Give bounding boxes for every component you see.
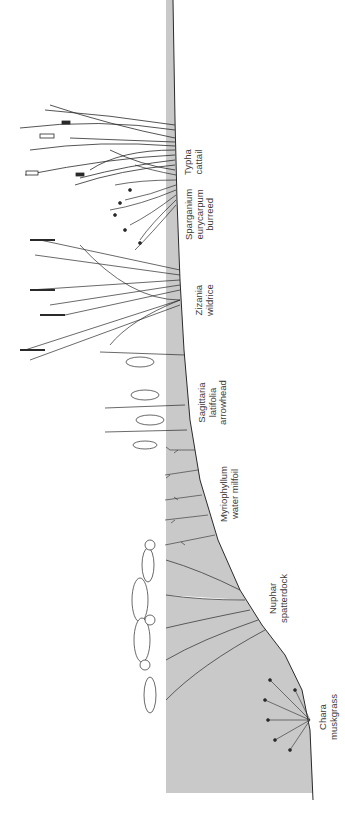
label-nuphar-genus: Nuphar: [268, 574, 279, 623]
label-myriophyllum-common: water milfoil: [230, 466, 241, 522]
label-chara-genus: Chara: [318, 694, 329, 740]
zizania-plants: [20, 240, 180, 360]
typha-plants: [20, 105, 175, 185]
label-typha-genus: Typha: [183, 149, 194, 175]
label-sparganium-genus: Sparganium: [184, 189, 195, 240]
label-nuphar: Nuphar spatterdock: [268, 574, 289, 623]
label-sagittaria: Sagittaria latifolia arrowhead: [197, 380, 229, 425]
label-typha-common: cattail: [194, 149, 205, 175]
label-myriophyllum-genus: Myriophyllum: [219, 466, 230, 522]
label-sagittaria-common: arrowhead: [218, 380, 229, 425]
lake-zonation-diagram: [0, 0, 345, 813]
label-sparganium-common: burreed: [205, 189, 216, 240]
label-zizania-genus: Zizania: [194, 284, 205, 316]
label-sparganium: Sparganium eurycarpum burreed: [184, 189, 216, 240]
label-chara: Chara muskgrass: [318, 694, 339, 740]
label-zizania-common: wildrice: [205, 284, 216, 316]
label-typha: Typha cattail: [183, 149, 204, 175]
label-sagittaria-genus: Sagittaria: [197, 380, 208, 425]
label-nuphar-common: spatterdock: [279, 574, 290, 623]
label-myriophyllum: Myriophyllum water milfoil: [219, 466, 240, 522]
label-zizania: Zizania wildrice: [194, 284, 215, 316]
label-chara-common: muskgrass: [329, 694, 340, 740]
